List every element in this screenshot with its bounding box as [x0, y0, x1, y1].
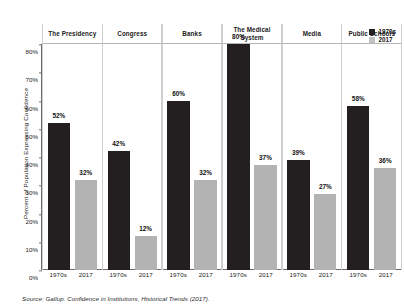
- panel-strip-the-medical-system: The Medical System: [222, 24, 283, 44]
- panel-strip-congress: Congress: [102, 24, 163, 44]
- bar-slot: 27%: [314, 44, 336, 270]
- y-axis-tick-40: 40%: [26, 161, 38, 168]
- bar-the-presidency-2017[interactable]: 32%: [75, 180, 97, 270]
- bar-slot: 60%: [167, 44, 189, 270]
- bar-group: 42%12%: [103, 44, 162, 270]
- bar-value-label: 39%: [292, 149, 305, 156]
- legend-item-1970s[interactable]: 1970s: [369, 29, 396, 35]
- bar-public-schools-2017[interactable]: 36%: [374, 168, 396, 270]
- bar-media-1970s[interactable]: 39%: [287, 160, 309, 270]
- bar-value-label: 58%: [352, 95, 365, 102]
- panel-strip-label: Congress: [117, 30, 147, 38]
- bar-the-medical-system-1970s[interactable]: 80%: [227, 44, 249, 270]
- bar-slot: 39%: [287, 44, 309, 270]
- x-axis-tick-label: 1970s: [47, 271, 70, 281]
- bar-congress-1970s[interactable]: 42%: [108, 151, 130, 270]
- panel-strip-banks: Banks: [162, 24, 223, 44]
- x-axis-tick-label: 2017: [74, 271, 97, 281]
- panel-strip-label: Banks: [182, 30, 201, 38]
- x-label-group: 1970s2017: [162, 271, 222, 281]
- panel-banks: 60%32%: [162, 44, 223, 270]
- bar-media-2017[interactable]: 27%: [314, 194, 336, 270]
- bar-slot: 80%: [227, 44, 249, 270]
- bar-value-label: 32%: [79, 169, 92, 176]
- panel-strip-the-presidency: The Presidency: [42, 24, 103, 44]
- bar-value-label: 42%: [112, 140, 125, 147]
- x-axis-tick-label: 2017: [194, 271, 217, 281]
- bar-slot: 52%: [48, 44, 70, 270]
- bar-slot: 36%: [374, 44, 396, 270]
- y-axis-tick-30: 30%: [26, 189, 38, 196]
- x-axis-tick-label: 2017: [134, 271, 157, 281]
- bar-value-label: 12%: [139, 225, 152, 232]
- y-axis-tick-10: 10%: [26, 245, 38, 252]
- y-axis-tick-80: 80%: [26, 48, 38, 55]
- x-axis-tick-label: 1970s: [227, 271, 250, 281]
- y-axis-tick-70: 70%: [26, 76, 38, 83]
- x-label-group: 1970s2017: [342, 271, 402, 281]
- bar-congress-2017[interactable]: 12%: [135, 236, 157, 270]
- panel-media: 39%27%: [282, 44, 343, 270]
- x-label-group: 1970s2017: [102, 271, 162, 281]
- legend-label: 2017: [378, 37, 392, 43]
- y-axis-tick-20: 20%: [26, 217, 38, 224]
- legend-swatch-icon: [369, 29, 375, 35]
- x-axis-tick-label: 1970s: [287, 271, 310, 281]
- bar-banks-1970s[interactable]: 60%: [167, 101, 189, 271]
- y-axis-tick-labels: 80%70%60%50%40%30%20%10%0%: [0, 44, 42, 270]
- legend-swatch-icon: [369, 37, 375, 43]
- panels-row: 52%32%42%12%60%32%80%37%39%27%58%36%: [42, 44, 402, 270]
- bar-public-schools-1970s[interactable]: 58%: [347, 106, 369, 270]
- panel-the-presidency: 52%32%: [42, 44, 103, 270]
- bar-banks-2017[interactable]: 32%: [194, 180, 216, 270]
- bar-value-label: 37%: [259, 154, 272, 161]
- x-axis-tick-labels: 1970s20171970s20171970s20171970s20171970…: [42, 271, 402, 281]
- x-axis-tick-label: 1970s: [167, 271, 190, 281]
- panel-strip-media: Media: [282, 24, 343, 44]
- bar-slot: 12%: [135, 44, 157, 270]
- legend: 1970s2017: [369, 29, 396, 43]
- legend-item-2017[interactable]: 2017: [369, 37, 396, 43]
- x-axis-tick-label: 2017: [254, 271, 277, 281]
- bar-value-label: 32%: [199, 169, 212, 176]
- legend-label: 1970s: [378, 29, 396, 35]
- bar-value-label: 36%: [379, 157, 392, 164]
- x-label-group: 1970s2017: [282, 271, 342, 281]
- bar-chart: Percent of Population Expressing Confide…: [0, 0, 404, 306]
- x-label-group: 1970s2017: [42, 271, 102, 281]
- bar-slot: 42%: [108, 44, 130, 270]
- bar-group: 80%37%: [223, 44, 282, 270]
- y-axis-tick-50: 50%: [26, 132, 38, 139]
- bar-group: 39%27%: [283, 44, 342, 270]
- panel-strip-label: The Presidency: [48, 30, 96, 38]
- panel-strip-label: Media: [303, 30, 321, 38]
- plot-area: The PresidencyCongressBanksThe Medical S…: [42, 24, 402, 270]
- bar-slot: 32%: [194, 44, 216, 270]
- panel-strip-headers: The PresidencyCongressBanksThe Medical S…: [42, 24, 402, 44]
- bar-value-label: 60%: [172, 90, 185, 97]
- x-axis-tick-label: 2017: [314, 271, 337, 281]
- bar-value-label: 27%: [319, 183, 332, 190]
- bar-value-label: 80%: [232, 33, 245, 40]
- bar-the-presidency-1970s[interactable]: 52%: [48, 123, 70, 270]
- y-axis-tick-0: 0%: [29, 274, 38, 281]
- panel-congress: 42%12%: [102, 44, 163, 270]
- panel-the-medical-system: 80%37%: [222, 44, 283, 270]
- bar-value-label: 52%: [52, 112, 65, 119]
- panel-public-schools: 58%36%: [341, 44, 402, 270]
- bar-slot: 58%: [347, 44, 369, 270]
- bar-group: 52%32%: [43, 44, 102, 270]
- source-note: Source: Gallup. Confidence in Institutio…: [22, 295, 210, 302]
- bar-the-medical-system-2017[interactable]: 37%: [254, 165, 276, 270]
- x-label-group: 1970s2017: [222, 271, 282, 281]
- bar-slot: 32%: [75, 44, 97, 270]
- x-axis-tick-label: 1970s: [107, 271, 130, 281]
- x-axis-tick-label: 1970s: [347, 271, 370, 281]
- x-axis-tick-label: 2017: [374, 271, 397, 281]
- y-axis-tick-60: 60%: [26, 104, 38, 111]
- bar-slot: 37%: [254, 44, 276, 270]
- bar-group: 60%32%: [163, 44, 222, 270]
- bar-group: 58%36%: [342, 44, 401, 270]
